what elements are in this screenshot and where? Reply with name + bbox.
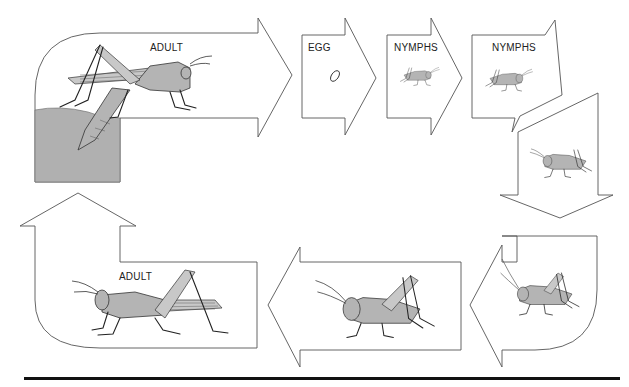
- stage-label-adult-bottom: ADULT: [119, 271, 152, 282]
- bottom-rule: [24, 377, 620, 380]
- stage-label-adult-top: ADULT: [150, 42, 183, 53]
- stage-label-nymphs-1: NYMPHS: [394, 42, 438, 53]
- life-cycle-diagram: [0, 0, 629, 387]
- stage-label-egg: EGG: [308, 42, 331, 53]
- stage-label-nymphs-2: NYMPHS: [492, 42, 536, 53]
